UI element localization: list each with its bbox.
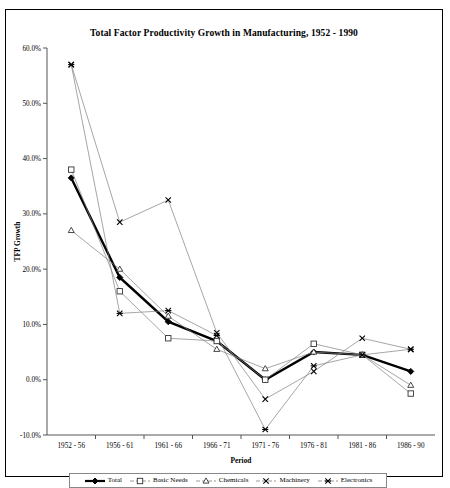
legend-item-total[interactable]: Total bbox=[84, 476, 122, 486]
x-axis-tick-label: 1966 - 71 bbox=[203, 442, 231, 450]
data-point-marker-cross bbox=[263, 396, 268, 401]
legend-marker-star-icon bbox=[317, 476, 339, 486]
legend-item-label: Chemicals bbox=[219, 477, 249, 484]
chart-legend: TotalBasic NeedsChemicalsMachineryElectr… bbox=[69, 473, 387, 488]
data-point-marker-star bbox=[117, 311, 123, 316]
data-point-marker-triangle bbox=[408, 382, 414, 387]
legend-marker-square-icon bbox=[129, 476, 151, 486]
series-line bbox=[71, 178, 411, 380]
data-point-marker-triangle bbox=[203, 477, 209, 482]
series-line bbox=[71, 65, 411, 430]
legend-marker-cross-icon bbox=[255, 476, 277, 486]
data-point-marker-star bbox=[262, 427, 268, 432]
data-point-marker-cross bbox=[360, 336, 365, 341]
data-point-marker-triangle bbox=[117, 266, 123, 271]
series-line bbox=[71, 170, 411, 394]
y-axis-tick-label: -10.0% bbox=[20, 432, 41, 440]
y-axis-tick-label: 20.0% bbox=[22, 266, 41, 274]
y-axis-title: TFP Growth bbox=[13, 222, 22, 262]
chart-plot-area: -10.0%0.0%10.0%20.0%30.0%40.0%50.0%60.0%… bbox=[6, 10, 444, 478]
data-point-marker-square bbox=[69, 167, 74, 172]
legend-marker-triangle-icon bbox=[195, 476, 217, 486]
x-axis-tick-label: 1961 - 66 bbox=[154, 442, 182, 450]
data-point-marker-square bbox=[137, 478, 142, 483]
x-axis-tick-label: 1986 - 90 bbox=[397, 442, 425, 450]
x-axis-tick-label: 1981 - 86 bbox=[348, 442, 376, 450]
data-point-marker-square bbox=[311, 341, 316, 346]
legend-item-label: Basic Needs bbox=[153, 477, 188, 484]
legend-item-electronics[interactable]: Electronics bbox=[317, 476, 373, 486]
x-axis-tick-label: 1956 - 61 bbox=[106, 442, 134, 450]
data-point-marker-square bbox=[263, 377, 268, 382]
data-point-marker-square bbox=[408, 391, 413, 396]
data-point-marker-cross bbox=[166, 197, 171, 202]
series-electronics bbox=[68, 62, 414, 432]
y-axis-tick-label: 50.0% bbox=[22, 100, 41, 108]
series-line bbox=[71, 65, 411, 399]
data-point-marker-star bbox=[311, 363, 317, 368]
y-axis-tick-label: 40.0% bbox=[22, 155, 41, 163]
legend-item-chemicals[interactable]: Chemicals bbox=[195, 476, 249, 486]
legend-marker-diamond-icon bbox=[84, 476, 106, 486]
series-machinery bbox=[69, 62, 414, 402]
data-point-marker-triangle bbox=[214, 346, 220, 351]
legend-item-label: Electronics bbox=[341, 477, 373, 484]
series-chemicals bbox=[68, 227, 414, 387]
x-axis-tick-label: 1971 - 76 bbox=[251, 442, 279, 450]
x-axis-tick-label: 1976 - 81 bbox=[300, 442, 328, 450]
legend-item-label: Machinery bbox=[279, 477, 309, 484]
data-point-marker-square bbox=[166, 336, 171, 341]
legend-item-label: Total bbox=[108, 477, 122, 484]
data-point-marker-star bbox=[408, 347, 414, 352]
x-axis-title: Period bbox=[231, 456, 253, 465]
data-point-marker-triangle bbox=[68, 227, 74, 232]
y-axis-tick-label: 10.0% bbox=[22, 321, 41, 329]
y-axis-tick-label: 30.0% bbox=[22, 210, 41, 218]
legend-item-basic-needs[interactable]: Basic Needs bbox=[129, 476, 188, 486]
series-line bbox=[71, 230, 411, 385]
legend-item-machinery[interactable]: Machinery bbox=[255, 476, 309, 486]
y-axis-tick-label: 0.0% bbox=[26, 376, 41, 384]
data-point-marker-square bbox=[117, 289, 122, 294]
data-point-marker-cross bbox=[311, 369, 316, 374]
chart-frame: Total Factor Productivity Growth in Manu… bbox=[5, 9, 443, 477]
y-axis-tick-label: 60.0% bbox=[22, 45, 41, 53]
data-point-marker-star bbox=[325, 478, 331, 483]
data-point-marker-diamond bbox=[408, 368, 414, 374]
data-point-marker-cross bbox=[117, 219, 122, 224]
x-axis-tick-label: 1952 - 56 bbox=[57, 442, 85, 450]
data-point-marker-star bbox=[68, 62, 74, 67]
data-point-marker-diamond bbox=[92, 478, 98, 484]
